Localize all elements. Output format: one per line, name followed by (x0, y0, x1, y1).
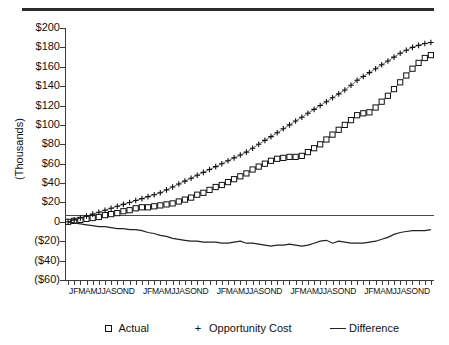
plus-marker: + (190, 322, 206, 334)
plot-area (0, 0, 449, 345)
chart-legend: Actual+ Opportunity Cost Difference (65, 322, 434, 338)
y-tick-mark (60, 86, 65, 87)
legend-label: Difference (349, 322, 399, 334)
y-tick-mark (60, 106, 65, 107)
y-tick-mark (60, 280, 65, 281)
legend-item-difference[interactable]: Difference (330, 322, 399, 334)
y-tick-mark (60, 202, 65, 203)
legend-label: Opportunity Cost (209, 322, 292, 334)
y-tick-mark (60, 47, 65, 48)
y-tick-mark (60, 261, 65, 262)
square-marker (100, 322, 116, 334)
line-marker (330, 322, 346, 334)
legend-label: Actual (118, 322, 149, 334)
y-tick-mark (60, 183, 65, 184)
y-tick-mark (60, 67, 65, 68)
y-tick-mark (60, 144, 65, 145)
chart-container: (Thousands) $200$180$160$140$120$100$80$… (0, 0, 449, 345)
legend-item-opportunity-cost[interactable]: + Opportunity Cost (190, 322, 292, 334)
series-actual (66, 53, 434, 225)
y-tick-mark (60, 164, 65, 165)
series-difference (68, 222, 431, 246)
y-tick-mark (60, 222, 65, 223)
legend-item-actual[interactable]: Actual (100, 322, 149, 334)
y-tick-mark (60, 241, 65, 242)
y-tick-mark (60, 28, 65, 29)
y-tick-mark (60, 125, 65, 126)
series-opportunity-cost (65, 40, 433, 225)
